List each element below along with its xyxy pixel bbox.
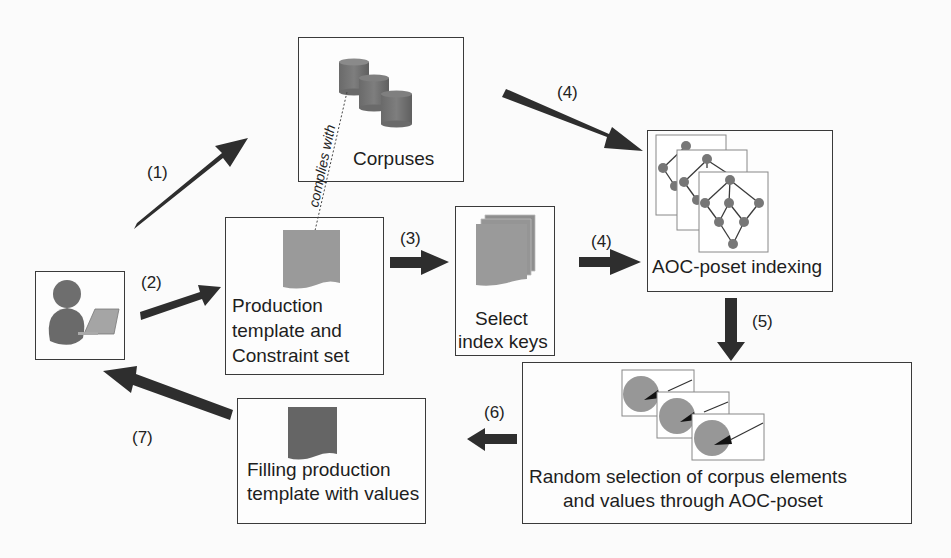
production-template-label-line3: Constraint set [232,344,349,367]
aoc-poset-indexing-label: AOC-poset indexing [652,255,822,278]
production-template-label-line2: template and [232,319,342,342]
corpuses-label: Corpuses [353,147,434,170]
arrow-step-6 [467,428,517,451]
select-index-keys-label-line2: index keys [458,330,548,353]
filling-template-label-line1: Filling production [247,458,391,481]
select-index-keys-label-line1: Select [475,307,528,330]
arrow-step-1 [134,138,248,229]
arrow-step-7 [103,366,233,420]
step-label-7: (7) [132,428,153,448]
step-label-2: (2) [141,273,162,293]
step-label-6: (6) [484,403,505,423]
step-label-4a: (4) [557,83,578,103]
complies-with-label: complies with [305,123,338,209]
filled-document-icon [288,407,337,460]
random-selection-label-line1: Random selection of corpus elements [529,465,847,488]
production-template-label-line1: Production [232,294,323,317]
arrow-step-3 [390,250,449,275]
lattice-graph-stack-icon [656,135,768,252]
user-with-laptop-icon [49,280,119,345]
step-label-1: (1) [147,163,168,183]
database-stack-icon [339,59,412,128]
document-icon [283,230,340,289]
step-label-3: (3) [400,229,421,249]
document-stack-icon [476,215,535,286]
arrow-step-4b [579,249,641,275]
filling-template-label-line2: template with values [247,482,419,505]
arrow-step-5 [717,298,745,361]
step-label-5: (5) [752,312,773,332]
step-label-4b: (4) [591,232,612,252]
random-selection-label-line2: and values through AOC-poset [563,489,823,512]
pie-chart-stack-icon [622,370,764,460]
